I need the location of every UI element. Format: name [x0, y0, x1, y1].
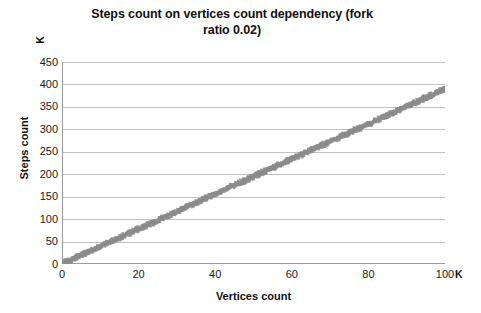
- x-tick-label-0: 0: [39, 269, 85, 280]
- chart-title-line-2: ratio 0.02): [203, 23, 261, 37]
- data-series-steps-count: [62, 86, 445, 264]
- data-point: [248, 180, 251, 183]
- y-axis-tick-labels: 050100150200250300350400450: [10, 0, 58, 313]
- data-point: [360, 129, 363, 132]
- x-tick-label-60: 60: [269, 269, 315, 280]
- x-axis-title: Vertices count: [62, 290, 445, 302]
- x-axis-unit-marker: K: [455, 268, 463, 280]
- y-tick-label-150: 150: [14, 191, 58, 202]
- gridlines: [62, 63, 445, 265]
- x-tick-label-80: 80: [345, 269, 391, 280]
- chart-title: Steps count on vertices count dependency…: [62, 7, 402, 38]
- x-tick-label-40: 40: [192, 269, 238, 280]
- y-tick-label-50: 50: [14, 236, 58, 247]
- y-tick-label-0: 0: [14, 259, 58, 270]
- data-point: [444, 88, 445, 91]
- x-tick-label-20: 20: [116, 269, 162, 280]
- y-tick-label-250: 250: [14, 146, 58, 157]
- y-tick-label-400: 400: [14, 79, 58, 90]
- data-point: [149, 225, 152, 228]
- y-tick-label-100: 100: [14, 214, 58, 225]
- data-point: [163, 219, 166, 222]
- y-tick-label-300: 300: [14, 124, 58, 135]
- chart-figure: Steps count on vertices count dependency…: [0, 0, 481, 313]
- data-point: [379, 119, 382, 122]
- plot-svg: [62, 62, 445, 264]
- y-tick-label-200: 200: [14, 169, 58, 180]
- x-axis-tick-labels: 020406080100: [62, 269, 445, 285]
- plot-area: [62, 62, 445, 264]
- data-point: [124, 235, 127, 238]
- chart-title-line-1: Steps count on vertices count dependency…: [91, 7, 373, 21]
- y-tick-label-350: 350: [14, 101, 58, 112]
- y-tick-label-450: 450: [14, 57, 58, 68]
- data-point: [265, 172, 268, 175]
